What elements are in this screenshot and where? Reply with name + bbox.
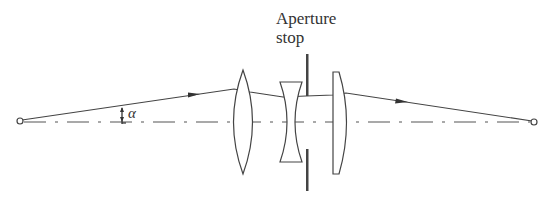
image-point-icon <box>531 119 537 125</box>
plano-convex-lens <box>333 72 347 174</box>
aperture-stop <box>306 54 309 191</box>
ray-arrow-left-icon <box>188 93 200 98</box>
angle-alpha-label: α <box>128 105 137 121</box>
object-point-icon <box>17 118 23 124</box>
optical-diagram: α Aperture stop <box>0 0 548 204</box>
ray-arrow-right-icon <box>395 99 408 104</box>
aperture-stop-label-line1: Aperture <box>276 9 336 28</box>
aperture-stop-label-line2: stop <box>276 28 304 47</box>
biconvex-lens <box>234 70 253 174</box>
marginal-ray <box>22 89 532 121</box>
